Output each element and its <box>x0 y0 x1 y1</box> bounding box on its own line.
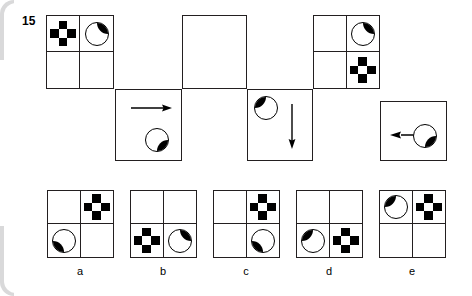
cell-top-right <box>347 16 380 52</box>
arrow-right-icon <box>131 102 171 114</box>
option-b-label: b <box>143 265 183 277</box>
arrow-down-icon <box>286 104 298 148</box>
cell-bottom-left <box>47 52 80 88</box>
cell-bottom-left <box>380 224 413 257</box>
cell-top-left <box>47 16 80 52</box>
option-d-label: d <box>309 265 349 277</box>
transform-box-c[interactable] <box>380 101 447 161</box>
cell-bottom-right <box>330 224 363 257</box>
pie-top-right-black-icon <box>351 22 375 46</box>
cell-bottom-right <box>164 224 197 257</box>
cell-bottom-left <box>214 224 247 257</box>
sequence-box-2-empty[interactable] <box>182 15 247 89</box>
cell-top-left <box>214 191 247 224</box>
cell-bottom-right <box>81 224 114 257</box>
cell-top-right <box>247 191 280 224</box>
transform-box-b[interactable] <box>247 89 313 161</box>
cell-bottom-right <box>80 52 113 88</box>
cross-icon <box>84 194 110 220</box>
sequence-box-1[interactable] <box>46 15 114 89</box>
option-e-label: e <box>392 265 432 277</box>
option-d-box[interactable] <box>296 190 363 258</box>
cell-bottom-left <box>314 52 347 88</box>
cross-icon <box>350 57 376 83</box>
question-number: 15 <box>22 14 35 28</box>
cross-icon <box>134 228 160 254</box>
cell-top-right <box>330 191 363 224</box>
cell-top-right <box>413 191 446 224</box>
pie-top-left-black-icon <box>384 195 408 219</box>
pie-top-right-black-icon <box>168 229 192 253</box>
pie-bottom-left-black-icon <box>52 229 76 253</box>
cross-icon <box>250 194 276 220</box>
cell-top-left <box>48 191 81 224</box>
pie-bottom-right-black-icon <box>145 128 169 152</box>
cell-bottom-left <box>131 224 164 257</box>
option-c-label: c <box>226 265 266 277</box>
pie-bottom-left-black-icon <box>251 229 275 253</box>
cell-top-left <box>314 16 347 52</box>
cell-top-left <box>131 191 164 224</box>
cross-icon <box>50 21 76 47</box>
cell-bottom-right <box>347 52 380 88</box>
option-a-box[interactable] <box>47 190 114 258</box>
cross-icon <box>416 194 442 220</box>
cell-bottom-right <box>247 224 280 257</box>
option-c-box[interactable] <box>213 190 280 258</box>
option-a-label: a <box>60 265 100 277</box>
option-b-box[interactable] <box>130 190 197 258</box>
pie-top-right-black-icon <box>85 22 109 46</box>
cell-top-right <box>81 191 114 224</box>
cell-top-left <box>297 191 330 224</box>
pie-bottom-right-black-icon <box>413 124 437 148</box>
cell-bottom-left <box>48 224 81 257</box>
cell-top-right <box>80 16 113 52</box>
cell-top-left <box>380 191 413 224</box>
puzzle-page: 15 <box>0 0 472 296</box>
cell-bottom-left <box>297 224 330 257</box>
pie-top-left-black-icon <box>301 229 325 253</box>
pie-top-left-black-icon <box>254 96 278 120</box>
cell-top-right <box>164 191 197 224</box>
cross-icon <box>333 228 359 254</box>
cell-bottom-right <box>413 224 446 257</box>
sequence-box-3[interactable] <box>313 15 380 89</box>
transform-box-a[interactable] <box>115 89 182 161</box>
option-e-box[interactable] <box>379 190 446 258</box>
